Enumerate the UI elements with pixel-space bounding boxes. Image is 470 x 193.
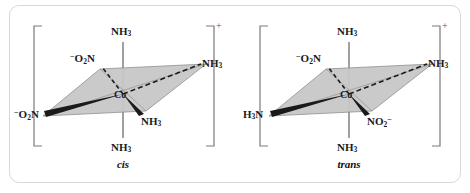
ligand-back-left-trans: −O2N xyxy=(296,53,321,65)
ligand-bottom-axial-trans: NH3 xyxy=(337,142,357,154)
ligand-back-right-cis: NH3 xyxy=(202,58,222,70)
ligand-front-left-cis: −O2N xyxy=(14,109,39,121)
complex-cis: + Co NH3 NH3 −O2N −O2N NH3 NH3 cis xyxy=(10,6,236,184)
figure-card: + Co NH3 NH3 −O2N −O2N NH3 NH3 cis xyxy=(9,5,461,183)
isomer-name-trans: trans xyxy=(236,158,462,170)
ligand-front-right-cis: NH3 xyxy=(141,116,161,128)
ligand-front-left-trans: H3N xyxy=(243,109,263,121)
isomer-name-cis: cis xyxy=(10,158,236,170)
metal-label-trans: Co xyxy=(340,90,352,100)
ligand-top-axial-cis: NH3 xyxy=(111,26,131,38)
complex-trans: + Co NH3 NH3 −O2N H3N NH3 NO2− trans xyxy=(236,6,462,184)
bracket-right xyxy=(432,26,440,146)
charge-cis: + xyxy=(216,20,222,31)
charge-trans: + xyxy=(442,20,448,31)
bracket-left xyxy=(34,26,42,146)
ligand-back-right-trans: NH3 xyxy=(428,58,448,70)
ligand-bottom-axial-cis: NH3 xyxy=(111,142,131,154)
bracket-left xyxy=(260,26,268,146)
ligand-top-axial-trans: NH3 xyxy=(337,26,357,38)
ligand-front-right-trans: NO2− xyxy=(367,116,392,128)
metal-label-cis: Co xyxy=(114,90,126,100)
ligand-back-left-cis: −O2N xyxy=(70,53,95,65)
bracket-right xyxy=(206,26,214,146)
